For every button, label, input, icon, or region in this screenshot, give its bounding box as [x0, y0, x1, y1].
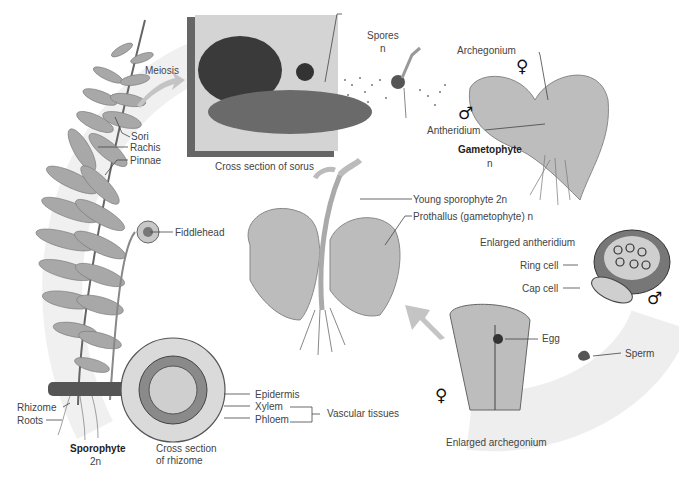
fertilization-arrow — [405, 305, 445, 340]
label-ring-cell: Ring cell — [520, 260, 558, 272]
sperm-shape — [578, 351, 590, 361]
label-cap-cell: Cap cell — [522, 283, 558, 295]
label-fiddlehead: Fiddlehead — [175, 227, 224, 239]
label-egg: Egg — [542, 333, 560, 345]
label-pinnae: Pinnae — [130, 155, 161, 167]
rhizome-cross-section — [121, 338, 225, 442]
label-gametophyte-ploidy: n — [487, 158, 493, 170]
label-enlarged-antheridium: Enlarged antheridium — [480, 237, 575, 249]
archegonium-enlarged — [450, 304, 530, 410]
female-symbol-icon: ♀ — [516, 58, 528, 75]
label-cross-section-rhizome-line2: of rhizome — [156, 455, 203, 467]
rhizome-shape — [48, 382, 133, 396]
label-spores-ploidy: n — [380, 43, 386, 55]
label-spores: Spores — [367, 30, 399, 42]
label-rhizome: Rhizome — [17, 402, 56, 414]
label-rachis: Rachis — [130, 142, 161, 154]
label-epidermis: Epidermis — [255, 389, 299, 401]
label-phloem: Phloem — [255, 414, 289, 426]
label-roots: Roots — [17, 415, 43, 427]
female-symbol-archegonium-icon: ♀ — [435, 387, 447, 404]
sorus-cross-section — [187, 15, 372, 157]
label-sporophyte: Sporophyte — [70, 443, 126, 455]
label-cross-section-rhizome-line1: Cross section — [156, 443, 217, 455]
label-sporophyte-ploidy: 2n — [90, 456, 101, 468]
label-meiosis: Meiosis — [145, 65, 179, 77]
male-symbol-antheridium-icon: ♂ — [647, 290, 662, 307]
label-archegonium: Archegonium — [457, 45, 516, 57]
label-cross-section-sorus: Cross section of sorus — [215, 161, 314, 173]
male-symbol-icon: ♂ — [458, 105, 473, 122]
gametophyte-heart — [469, 75, 608, 200]
prothallus-with-young-sporophyte — [248, 160, 400, 355]
label-prothallus: Prothallus (gametophyte) n — [413, 211, 533, 223]
label-xylem: Xylem — [255, 401, 283, 413]
label-vascular-tissues: Vascular tissues — [327, 408, 399, 420]
label-sperm: Sperm — [625, 348, 654, 360]
label-antheridium: Antheridium — [427, 125, 480, 137]
label-gametophyte: Gametophyte — [458, 144, 522, 156]
label-enlarged-archegonium: Enlarged archegonium — [446, 437, 547, 449]
label-young-sporophyte: Young sporophyte 2n — [413, 194, 507, 206]
